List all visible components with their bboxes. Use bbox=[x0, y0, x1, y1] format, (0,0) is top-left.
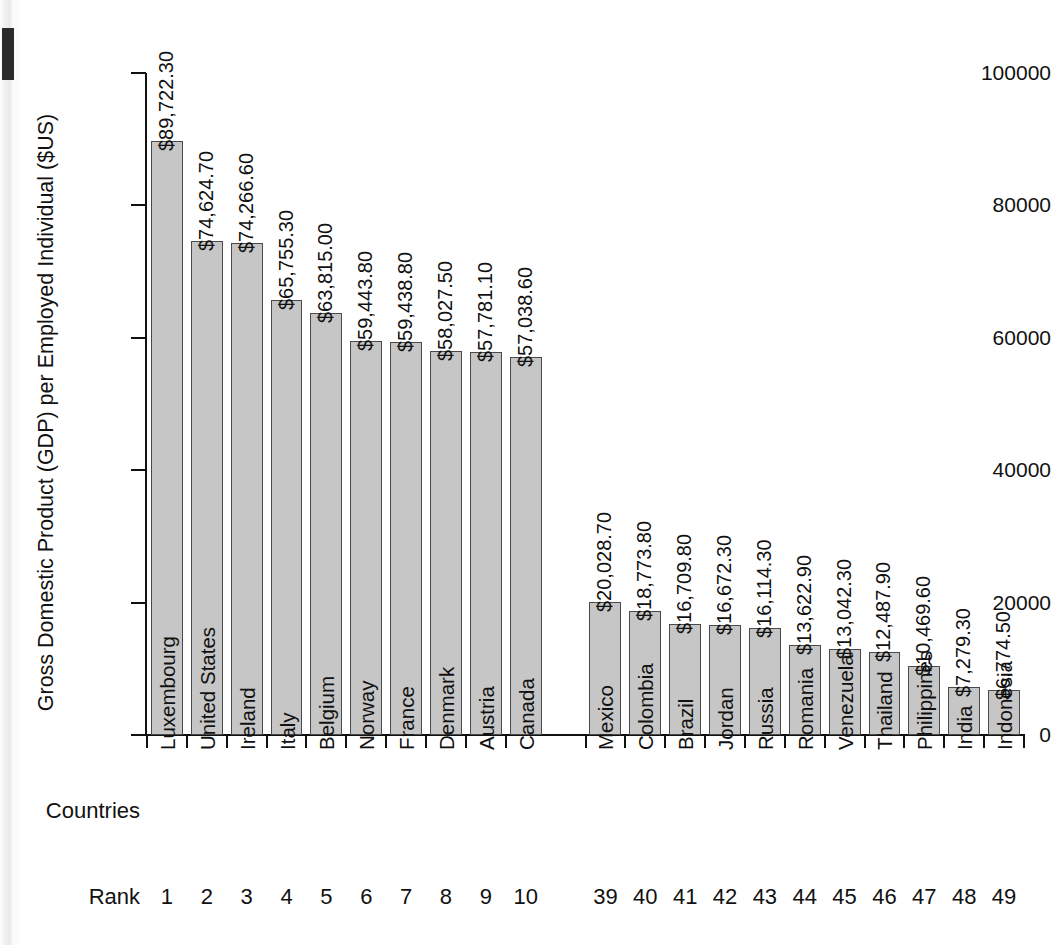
x-axis-tick bbox=[146, 736, 148, 748]
chart-page: Gross Domestic Product (GDP) per Employe… bbox=[0, 0, 1051, 945]
bar-chart-plot: Gross Domestic Product (GDP) per Employe… bbox=[0, 0, 1051, 945]
x-axis-tick bbox=[824, 736, 826, 748]
x-axis-tick bbox=[903, 736, 905, 748]
category-label: Ireland bbox=[238, 687, 259, 750]
category-label: Brazil bbox=[676, 699, 697, 750]
bar bbox=[271, 300, 303, 735]
x-axis-tick bbox=[266, 736, 268, 748]
category-label: United States bbox=[198, 627, 219, 750]
rank-row-label: Rank bbox=[0, 886, 140, 908]
x-axis-tick bbox=[704, 736, 706, 748]
bar-value-label: $18,773.80 bbox=[634, 521, 654, 621]
x-axis-tick bbox=[624, 736, 626, 748]
bar-value-label: $59,443.80 bbox=[355, 251, 375, 351]
category-label: Thailand bbox=[875, 671, 896, 750]
category-label: Canada bbox=[517, 678, 538, 750]
category-label: Belgium bbox=[317, 676, 338, 750]
bar-value-label: $7,279.30 bbox=[953, 608, 973, 697]
rank-value: 49 bbox=[979, 886, 1029, 908]
bar-value-label: $13,622.90 bbox=[794, 555, 814, 655]
category-label: Mexico bbox=[596, 685, 617, 750]
category-label: Luxembourg bbox=[158, 636, 179, 750]
x-axis-tick bbox=[186, 736, 188, 748]
category-label: France bbox=[397, 686, 418, 750]
x-axis-tick bbox=[664, 736, 666, 748]
bar-value-label: $16,114.30 bbox=[754, 540, 774, 639]
category-label: India bbox=[955, 706, 976, 750]
x-axis-tick bbox=[345, 736, 347, 748]
y-axis-tick bbox=[131, 469, 146, 471]
bar-value-label: $59,438.80 bbox=[395, 251, 415, 351]
bar-value-label: $20,028.70 bbox=[594, 512, 614, 612]
bar-value-label: $74,624.70 bbox=[196, 151, 216, 251]
y-axis-line bbox=[145, 73, 147, 736]
countries-row-label: Countries bbox=[0, 800, 140, 822]
bar bbox=[231, 243, 263, 735]
x-axis-tick bbox=[505, 736, 507, 748]
bar-value-label: $16,709.80 bbox=[674, 534, 694, 634]
category-label: Romania bbox=[796, 668, 817, 750]
category-label: Denmark bbox=[437, 667, 458, 750]
x-axis-tick bbox=[943, 736, 945, 748]
x-axis-tick bbox=[983, 736, 985, 748]
bar bbox=[390, 342, 422, 735]
y-axis-title: Gross Domestic Product (GDP) per Employe… bbox=[34, 93, 59, 733]
category-label: Philippines bbox=[915, 651, 936, 750]
y-axis-tick-label: 100000 bbox=[925, 62, 1051, 83]
y-axis-tick bbox=[131, 734, 146, 736]
x-axis-tick bbox=[465, 736, 467, 748]
x-axis-tick bbox=[305, 736, 307, 748]
bar-value-label: $58,027.50 bbox=[435, 261, 455, 361]
x-axis-tick bbox=[864, 736, 866, 748]
bar-value-label: $16,672.30 bbox=[714, 535, 734, 635]
bar-value-label: $65,755.30 bbox=[276, 210, 296, 310]
bar-value-label: $57,781.10 bbox=[475, 262, 495, 362]
bar-value-label: $13,042.30 bbox=[834, 559, 854, 659]
bar-value-label: $89,722.30 bbox=[156, 51, 176, 151]
category-label: Jordan bbox=[716, 687, 737, 750]
y-axis-tick bbox=[131, 602, 146, 604]
category-label: Norway bbox=[357, 681, 378, 751]
rank-value: 10 bbox=[501, 886, 551, 908]
y-axis-tick bbox=[131, 204, 146, 206]
y-axis-tick-label: 80000 bbox=[925, 194, 1051, 215]
x-axis-tick bbox=[585, 736, 587, 748]
bar-value-label: $63,815.00 bbox=[315, 222, 335, 322]
y-axis-tick bbox=[131, 72, 146, 74]
category-label: Colombia bbox=[636, 663, 657, 750]
category-label: Austria bbox=[477, 686, 498, 750]
category-label: Italy bbox=[278, 712, 299, 750]
bar bbox=[310, 313, 342, 735]
category-label: Russia bbox=[756, 687, 777, 750]
x-axis-tick bbox=[226, 736, 228, 748]
category-label: Venezuela bbox=[836, 654, 857, 750]
x-axis-tick bbox=[425, 736, 427, 748]
x-axis-tick bbox=[744, 736, 746, 748]
bar-value-label: $57,038.60 bbox=[515, 267, 535, 367]
y-axis-tick bbox=[131, 337, 146, 339]
x-axis-tick bbox=[1023, 736, 1025, 748]
y-axis-tick-label: 60000 bbox=[925, 327, 1051, 348]
y-axis-tick-label: 40000 bbox=[925, 459, 1051, 480]
x-axis-tick bbox=[385, 736, 387, 748]
bar bbox=[350, 341, 382, 735]
bar bbox=[470, 352, 502, 735]
y-axis-tick-label: 20000 bbox=[925, 592, 1051, 613]
bar-value-label: $74,266.60 bbox=[236, 153, 256, 253]
x-axis-tick bbox=[784, 736, 786, 748]
bar-value-label: $12,487.90 bbox=[873, 562, 893, 662]
category-label: Indonesia bbox=[995, 661, 1016, 750]
